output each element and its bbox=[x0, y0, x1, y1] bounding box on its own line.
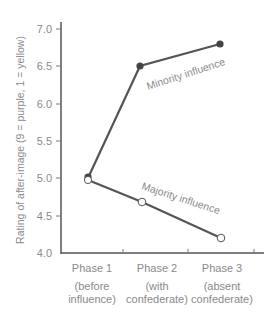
y-ticks: 7.0 6.5 6.0 5.5 5.0 4.5 4.0 bbox=[37, 23, 61, 259]
y-tick-label: 4.0 bbox=[37, 247, 52, 259]
category-label: Phase 3 bbox=[202, 262, 242, 274]
category-labels: Phase 1 (before influence) Phase 2 (with… bbox=[68, 262, 253, 305]
y-tick-label: 4.5 bbox=[37, 210, 52, 222]
series-majority: Majority influence bbox=[84, 176, 224, 241]
category-sublabel: confederate) bbox=[191, 293, 253, 305]
series-label-majority: Majority influence bbox=[140, 179, 222, 216]
y-axis-title: Rating of after-image (9 = purple, 1 = y… bbox=[14, 36, 26, 244]
category-sublabel: influence) bbox=[68, 293, 116, 305]
category-sublabel: (with bbox=[145, 280, 168, 292]
open-circle-marker bbox=[217, 234, 225, 242]
filled-circle-marker bbox=[136, 62, 143, 69]
category-sublabel: (before bbox=[75, 280, 110, 292]
category-sublabel: (absent bbox=[204, 280, 241, 292]
category-label: Phase 1 bbox=[72, 262, 112, 274]
filled-circle-marker bbox=[216, 40, 223, 47]
chart-canvas: 7.0 6.5 6.0 5.5 5.0 4.5 4.0 Rating of af… bbox=[0, 0, 280, 313]
y-tick-label: 6.0 bbox=[37, 98, 52, 110]
category-sublabel: confederate) bbox=[126, 293, 188, 305]
category-label: Phase 2 bbox=[137, 262, 177, 274]
y-tick-label: 7.0 bbox=[37, 23, 52, 35]
y-tick-label: 5.5 bbox=[37, 135, 52, 147]
y-tick-label: 6.5 bbox=[37, 60, 52, 72]
y-tick-label: 5.0 bbox=[37, 172, 52, 184]
series-minority: Minority influence bbox=[84, 40, 226, 180]
open-circle-marker bbox=[138, 198, 146, 206]
open-circle-marker bbox=[84, 176, 91, 183]
